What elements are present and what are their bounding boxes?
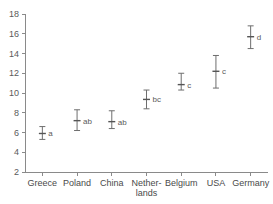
x-tick-label: China	[100, 178, 124, 188]
y-tick-label: 2	[14, 167, 19, 177]
y-tick-label: 12	[9, 68, 19, 78]
data-point-group: c	[212, 55, 226, 88]
significance-group-label: ab	[83, 117, 92, 126]
chart-container: 24681012141618 GreecePolandChinaNether-l…	[0, 0, 273, 204]
x-tick-label: Belgium	[165, 178, 198, 188]
x-tick-label: Poland	[63, 178, 91, 188]
x-tick-label: USA	[207, 178, 226, 188]
y-tick-label: 10	[9, 88, 19, 98]
y-tick-label: 16	[9, 29, 19, 39]
data-point-group: a	[39, 127, 54, 140]
x-tick-label: Germany	[232, 178, 270, 188]
error-bar-chart: 24681012141618 GreecePolandChinaNether-l…	[0, 0, 273, 204]
data-point-group: bc	[143, 90, 161, 109]
x-axis: GreecePolandChinaNether-landsBelgiumUSAG…	[25, 172, 270, 198]
y-tick-label: 18	[9, 9, 19, 19]
x-tick-label: Nether-	[131, 178, 161, 188]
y-tick-label: 14	[9, 49, 19, 59]
significance-group-label: a	[48, 129, 53, 138]
y-tick-label: 4	[14, 147, 19, 157]
data-point-group: ab	[108, 111, 127, 129]
y-tick-label: 8	[14, 108, 19, 118]
significance-group-label: c	[222, 67, 226, 76]
significance-group-label: bc	[153, 95, 161, 104]
significance-group-label: d	[257, 33, 261, 42]
data-series: aababbcccd	[39, 26, 261, 140]
data-point-group: c	[178, 73, 192, 90]
x-tick-label: Greece	[28, 178, 58, 188]
x-tick-label-line2: lands	[136, 188, 158, 198]
data-point-group: d	[247, 26, 261, 49]
significance-group-label: c	[187, 81, 191, 90]
y-tick-label: 6	[14, 128, 19, 138]
significance-group-label: ab	[118, 118, 127, 127]
y-axis: 24681012141618	[9, 9, 25, 177]
data-point-group: ab	[74, 110, 93, 131]
